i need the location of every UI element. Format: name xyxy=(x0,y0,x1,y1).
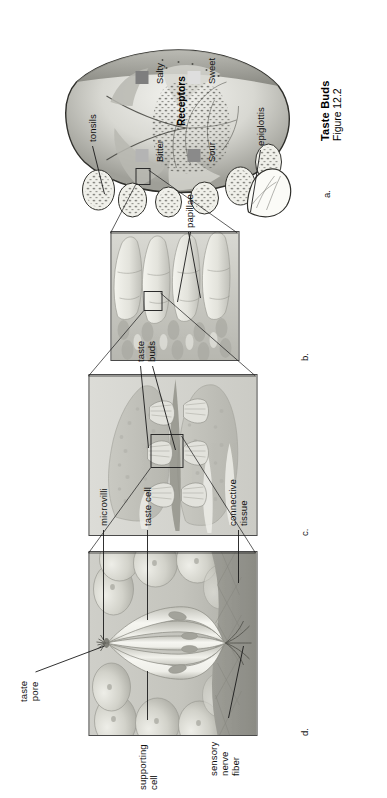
figure-number: Figure 12.2 xyxy=(331,81,342,141)
legend-label-sour: Sour xyxy=(205,142,216,162)
panel-letter-c: c. xyxy=(298,529,309,536)
legend-label-salty: Salty xyxy=(153,63,164,84)
legend-swatch-salty xyxy=(135,71,148,84)
panel-letter-a: a. xyxy=(320,190,331,198)
receptors-legend: Bitter Sour Salty Sweet Receptors xyxy=(135,32,255,162)
label-taste-cell: taste cell xyxy=(141,487,152,526)
figure-canvas: d. xyxy=(0,0,387,798)
legend-label-bitter: Bitter xyxy=(153,140,164,162)
panel-letter-d: d. xyxy=(298,728,309,736)
legend-swatch-sour xyxy=(187,149,200,162)
legend-title: Receptors xyxy=(175,76,186,126)
legend-swatch-sweet xyxy=(187,71,200,84)
label-taste-buds: taste buds xyxy=(134,341,156,362)
label-tonsils: tonsils xyxy=(86,114,97,142)
panel-d-image xyxy=(88,551,257,736)
callout-box-c-to-d xyxy=(150,434,183,468)
label-connective-tissue: connective tissue xyxy=(226,479,248,526)
callout-box-b-to-c xyxy=(143,291,162,311)
label-papillae: papillae xyxy=(183,194,194,228)
label-sensory-nerve-fiber: sensory nerve fiber xyxy=(207,742,240,776)
panel-letter-b: b. xyxy=(298,353,309,361)
legend-label-sweet: Sweet xyxy=(205,58,216,84)
label-supporting-cell: supporting cell xyxy=(136,744,158,790)
label-microvilli: microvilli xyxy=(97,488,108,526)
panel-b-image xyxy=(110,231,239,361)
legend-swatch-bitter xyxy=(135,149,148,162)
figure-title: Taste Buds xyxy=(318,81,330,141)
label-epiglottis: epiglottis xyxy=(254,107,265,146)
figure-caption: Taste Buds Figure 12.2 xyxy=(318,81,342,141)
callout-box-a-to-b xyxy=(135,168,150,185)
label-taste-pore: taste pore xyxy=(17,681,39,702)
